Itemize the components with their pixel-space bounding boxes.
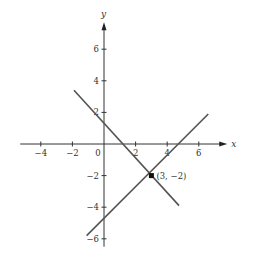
axes xyxy=(20,22,227,246)
decreasing-line xyxy=(74,90,179,205)
intersection-point xyxy=(149,173,154,178)
increasing-line xyxy=(87,114,209,236)
y-tick-label: −2 xyxy=(86,171,99,181)
y-tick-label: −4 xyxy=(86,202,99,212)
x-tick-label: 0 xyxy=(95,148,100,158)
x-tick-label: 6 xyxy=(196,148,201,158)
intersection-label: (3, −2) xyxy=(156,171,186,181)
x-axis-title: x xyxy=(231,139,236,149)
y-tick-label: −6 xyxy=(86,234,99,244)
y-tick-label: 4 xyxy=(94,76,99,86)
y-axis-arrow xyxy=(102,22,107,30)
series xyxy=(74,90,208,235)
x-axis-arrow xyxy=(219,142,227,147)
y-axis-title: y xyxy=(100,9,107,19)
chart: −4−20246−6−4−2246 (3, −2) x y xyxy=(0,0,255,268)
x-tick-label: −2 xyxy=(66,148,79,158)
x-tick-label: −4 xyxy=(35,148,48,158)
y-tick-label: 6 xyxy=(94,44,99,54)
